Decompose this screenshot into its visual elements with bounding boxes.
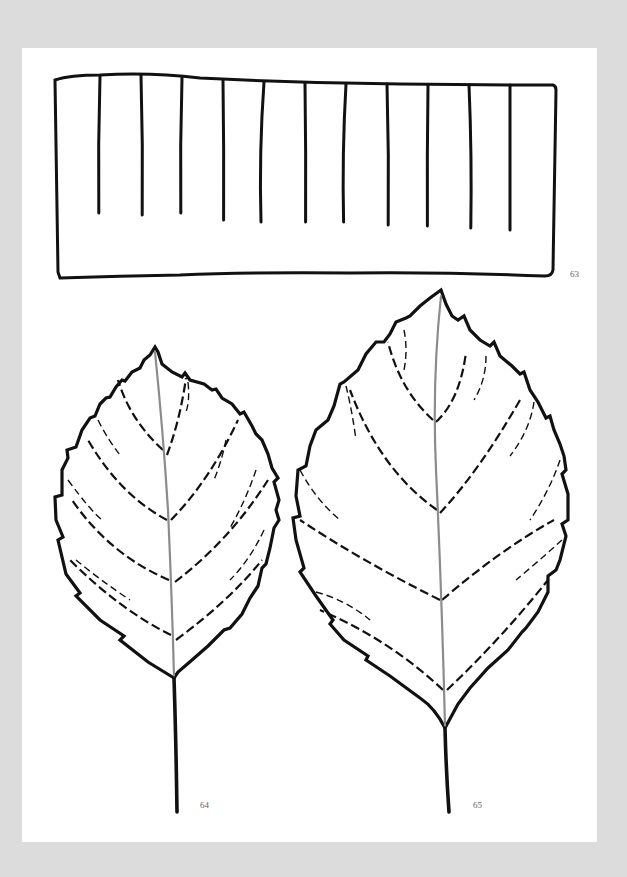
vertical-line (387, 84, 388, 225)
figure-label-65: 65 (473, 801, 482, 810)
vertical-line (427, 85, 428, 226)
leaf-65-stem (445, 728, 449, 812)
vertical-line (469, 85, 471, 228)
illustration-canvas (0, 0, 627, 877)
figure-label-63: 63 (570, 270, 579, 279)
vertical-line (343, 84, 346, 222)
vertical-line (305, 83, 306, 222)
vertical-line (99, 76, 100, 213)
vertical-line (223, 80, 224, 220)
vertical-lines (99, 75, 510, 230)
figure-label-64: 64 (200, 801, 209, 810)
leaf-64-stem (174, 678, 177, 812)
figure-64-leaf (55, 347, 279, 812)
vertical-line (181, 78, 182, 213)
vertical-line (141, 75, 142, 215)
vertical-line (260, 82, 264, 222)
figure-63-rectangle (55, 74, 556, 278)
leaf-65-outline (293, 290, 568, 728)
figure-65-leaf (293, 290, 568, 812)
